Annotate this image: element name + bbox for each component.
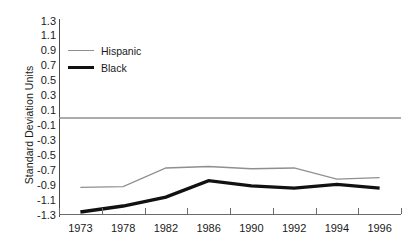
y-axis-tick-label: -1.1 (26, 195, 56, 206)
chart-legend: Hispanic Black (68, 42, 188, 76)
y-axis-tick-label: -0.9 (26, 180, 56, 191)
x-axis-tick-label: 1992 (271, 222, 317, 235)
legend-item-black: Black (68, 59, 188, 76)
legend-label-black: Black (101, 62, 127, 74)
legend-swatch-hispanic-icon (68, 50, 94, 51)
x-axis-tick-labels: 19731978198219861990199219941996 (59, 222, 401, 238)
y-axis-tick-label: 1.3 (26, 16, 56, 27)
y-axis-tick-label: -1.3 (26, 210, 56, 221)
line-chart: Standard Deviation Units 1.31.10.90.70.5… (0, 0, 408, 250)
x-axis-tick-label: 1996 (357, 222, 403, 235)
y-axis-tick-label: 0.9 (26, 45, 56, 56)
x-axis-tick-label: 1994 (314, 222, 360, 235)
y-axis-tick-label: 1.1 (26, 30, 56, 41)
x-axis-tick (230, 208, 231, 214)
y-axis-tick-label: 0.5 (26, 75, 56, 86)
y-axis-tick-labels: 1.31.10.90.70.50.30.1-0.1-0.3-0.5-0.7-0.… (26, 13, 56, 215)
y-axis-tick-label: -0.5 (26, 150, 56, 161)
x-axis-ticks (59, 208, 401, 215)
x-axis-tick (316, 208, 317, 214)
x-axis-tick-label: 1990 (228, 222, 274, 235)
x-axis-tick (59, 208, 60, 214)
x-axis-tick (145, 208, 146, 214)
x-axis-tick-label: 1973 (57, 222, 103, 235)
x-axis-tick (187, 208, 188, 214)
x-axis-tick-label: 1978 (100, 222, 146, 235)
x-axis-tick-label: 1986 (186, 222, 232, 235)
y-axis-tick-label: 0.7 (26, 60, 56, 71)
legend-item-hispanic: Hispanic (68, 42, 188, 59)
x-axis-tick (273, 208, 274, 214)
y-axis-tick-label: 0.3 (26, 90, 56, 101)
y-axis-tick-label: -0.1 (26, 120, 56, 131)
y-axis-tick-label: -0.7 (26, 165, 56, 176)
legend-label-hispanic: Hispanic (101, 45, 141, 57)
x-axis-tick-label: 1982 (143, 222, 189, 235)
y-axis-tick-label: 0.1 (26, 105, 56, 116)
x-axis-tick (401, 208, 402, 214)
x-axis-tick (102, 208, 103, 214)
x-axis-tick (358, 208, 359, 214)
y-axis-tick-label: -0.3 (26, 135, 56, 146)
legend-swatch-black-icon (68, 66, 94, 69)
